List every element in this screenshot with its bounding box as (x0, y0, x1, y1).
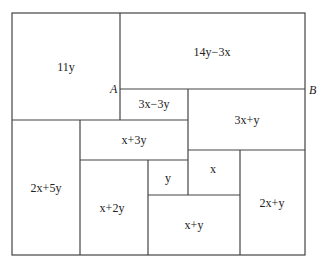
region-label-x: x (210, 162, 216, 176)
region-label-2x+5y: 2x+5y (31, 181, 62, 195)
point-label-b: B (309, 83, 317, 97)
region-label-x+2y: x+2y (100, 201, 125, 215)
region-label-y: y (165, 171, 171, 185)
region-label-3x+y: 3x+y (235, 113, 260, 127)
region-label-x+y: x+y (185, 218, 204, 232)
region-label-11y: 11y (57, 60, 75, 74)
region-label-3x-3y: 3x−3y (139, 97, 170, 111)
region-label-2x+y: 2x+y (260, 196, 285, 210)
region-label-14y-3x: 14y−3x (194, 45, 231, 59)
point-label-a: A (109, 82, 118, 96)
region-label-x+3y: x+3y (122, 133, 147, 147)
dissection-diagram: 11y 14y−3x 3x−3y 3x+y x+3y 2x+5y x+2y y … (0, 0, 323, 271)
outer-rectangle (12, 13, 305, 255)
